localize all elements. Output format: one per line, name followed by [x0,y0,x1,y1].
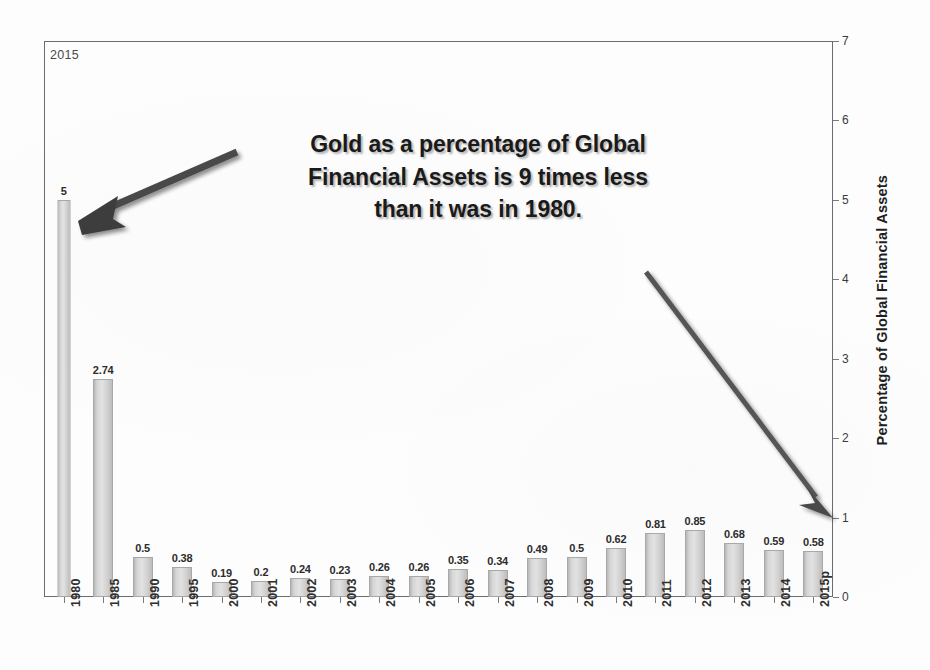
annotation-line-3: than it was in 1980. [283,193,673,226]
x-axis-tick [300,597,301,603]
x-axis-tick [577,597,578,603]
chart-container: 2015 52.740.50.380.190.20.240.230.260.26… [0,0,930,670]
x-axis-label: 2010 [621,578,635,607]
bar-value-label: 0.62 [606,533,627,545]
bar-slot: 0.26 [361,41,397,597]
x-axis-tick [103,597,104,603]
bar-value-label: 0.49 [527,543,548,555]
x-axis-tick [774,597,775,603]
y-axis-title: Percentage of Global Financial Assets [874,175,890,445]
x-axis-label: 2015p [818,571,832,607]
y-axis-tick [833,438,839,439]
bar-value-label: 0.35 [448,554,469,566]
y-axis-label: 5 [842,193,849,207]
bar-value-label: 0.58 [803,536,824,548]
bar-slot: 0.26 [401,41,437,597]
bar-slot: 0.5 [559,41,595,597]
bar-slot: 0.59 [756,41,792,597]
bar-slot: 5 [46,41,82,597]
bar-value-label: 0.5 [569,542,584,554]
bar-value-label: 0.81 [645,518,666,530]
x-axis-label: 2011 [660,579,674,607]
bar-value-label: 0.85 [685,515,706,527]
bar-slot: 0.34 [480,41,516,597]
x-axis-tick [261,597,262,603]
x-axis-label: 2004 [384,578,398,607]
x-axis-tick [813,597,814,603]
annotation-line-2: Financial Assets is 9 times less [283,161,673,194]
x-axis-label: 2009 [582,578,596,607]
x-axis-label: 2012 [700,578,714,607]
bar-slot: 0.5 [125,41,161,597]
bar-slot: 0.85 [677,41,713,597]
x-axis-label: 1995 [187,578,201,607]
x-axis-label: 2014 [779,578,793,607]
x-axis-tick [655,597,656,603]
y-axis-label: 0 [842,590,849,604]
bar-slot: 0.23 [322,41,358,597]
bar-slot: 0.19 [204,41,240,597]
x-axis-label: 2002 [305,578,319,607]
x-axis-label: 2006 [463,578,477,607]
x-axis-label: 2000 [227,578,241,607]
y-axis-tick [833,279,839,280]
bar-value-label: 0.59 [764,535,785,547]
bar-value-label: 0.26 [408,561,429,573]
bar[interactable] [57,200,70,597]
bar-value-label: 0.2 [254,566,269,578]
bar-slot: 0.2 [243,41,279,597]
x-axis-tick [379,597,380,603]
y-axis-label: 7 [842,34,849,48]
bar-slot: 0.58 [795,41,831,597]
bar-slot: 0.35 [440,41,476,597]
bar-slot: 0.62 [598,41,634,597]
x-axis-label: 2008 [542,578,556,607]
x-axis-tick [734,597,735,603]
y-axis-label: 6 [842,113,849,127]
x-axis-label: 2013 [739,578,753,607]
bar-value-label: 0.24 [290,563,311,575]
x-axis-tick [182,597,183,603]
x-axis: 1980198519901995200020012002200320042005… [44,597,833,670]
bar[interactable] [93,379,113,597]
y-axis-label: 1 [842,511,849,525]
y-axis-tick [833,518,839,519]
bar-value-label: 0.23 [330,564,351,576]
x-axis-label: 2007 [503,578,517,607]
x-axis-label: 2001 [266,578,280,607]
y-axis-tick [833,41,839,42]
x-axis-label: 2005 [424,578,438,607]
y-axis-tick [833,200,839,201]
y-axis-label: 2 [842,431,849,445]
bar-value-label: 0.5 [135,542,150,554]
x-axis-tick [498,597,499,603]
bar-slot: 0.38 [164,41,200,597]
x-axis-tick [222,597,223,603]
bar-value-label: 2.74 [93,364,114,376]
annotation-line-1: Gold as a percentage of Global [283,128,673,161]
x-axis-tick [419,597,420,603]
x-axis-label: 1990 [148,578,162,607]
bar-slot: 0.81 [637,41,673,597]
y-axis-label: 3 [842,352,849,366]
bars-layer: 52.740.50.380.190.20.240.230.260.260.350… [44,41,833,597]
y-axis-label: 4 [842,272,849,286]
bar-slot: 0.24 [282,41,318,597]
bar-value-label: 0.19 [211,567,232,579]
bar-value-label: 0.26 [369,561,390,573]
bar-slot: 2.74 [85,41,121,597]
x-axis-tick [616,597,617,603]
x-axis-tick [458,597,459,603]
x-axis-tick [537,597,538,603]
x-axis-label: 2003 [345,578,359,607]
x-axis-tick [143,597,144,603]
bar-value-label: 5 [61,185,67,197]
y-axis-tick [833,359,839,360]
y-axis-tick [833,597,839,598]
x-axis-label: 1980 [69,578,83,607]
y-axis-tick [833,120,839,121]
bar-value-label: 0.38 [172,552,193,564]
x-axis-tick [64,597,65,603]
x-axis-label: 1985 [108,578,122,607]
bar-slot: 0.68 [716,41,752,597]
